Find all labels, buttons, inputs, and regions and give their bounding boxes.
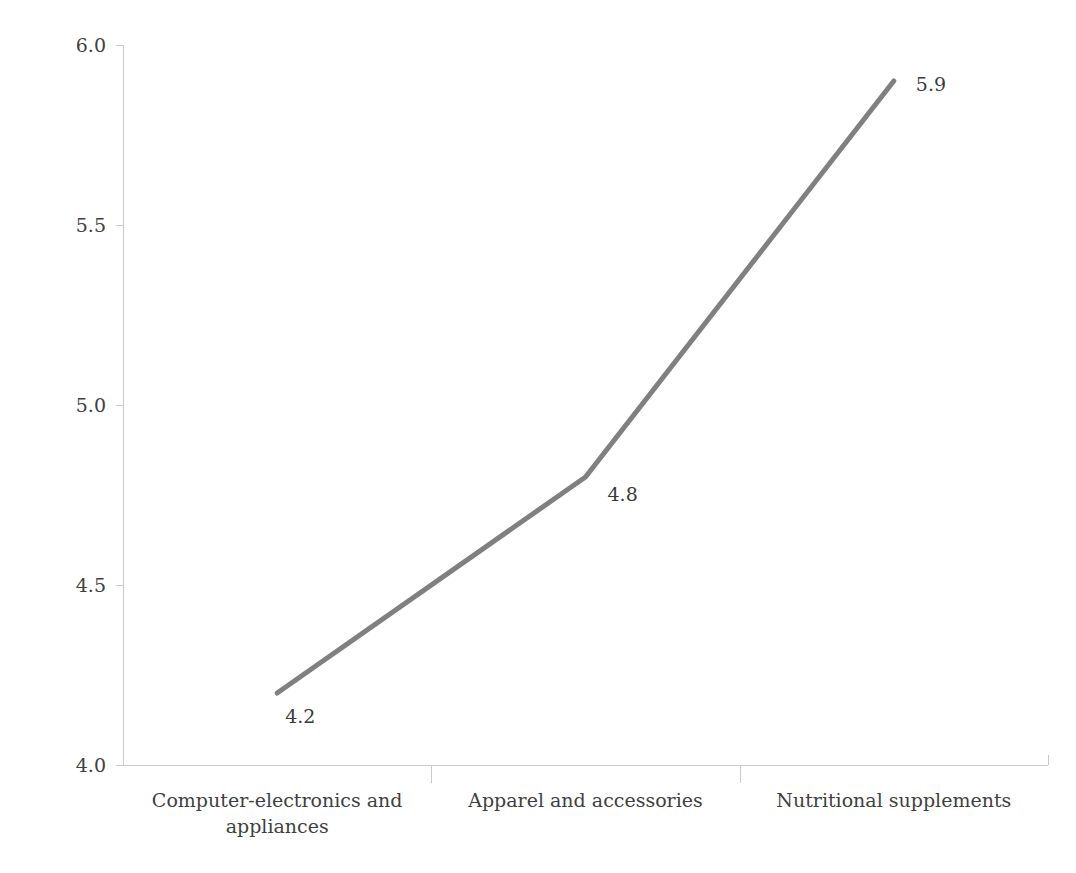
series-line-chart <box>0 0 1076 873</box>
data-point-label: 4.2 <box>285 705 315 727</box>
data-point-label: 4.8 <box>608 483 638 505</box>
data-point-label: 5.9 <box>916 73 946 95</box>
data-series-line <box>277 81 894 693</box>
chart-canvas: Ease to evaluate quality before consumpt… <box>0 0 1076 873</box>
